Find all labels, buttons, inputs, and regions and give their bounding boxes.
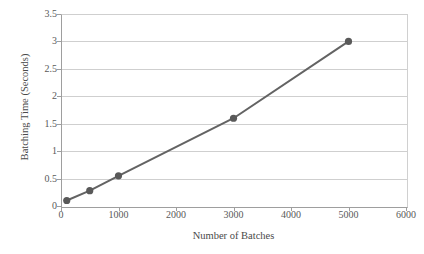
x-axis-tick-label: 6000 <box>376 210 424 220</box>
y-axis-tick-label: 3 <box>17 36 57 46</box>
data-point-marker <box>86 187 93 194</box>
series-line <box>67 41 349 200</box>
y-axis-tick-label: 1 <box>17 146 57 156</box>
data-point-marker <box>345 38 352 45</box>
data-point-marker <box>230 115 237 122</box>
y-axis-tick-label: 3.5 <box>17 9 57 19</box>
y-axis-tick-label: 1.5 <box>17 119 57 129</box>
y-axis-tick-mark <box>57 41 61 42</box>
x-axis-tick-label: 5000 <box>319 210 379 220</box>
chart-container: Batching Time (Seconds) Number of Batche… <box>0 0 424 254</box>
x-axis-tick-label: 1000 <box>89 210 149 220</box>
y-axis-tick-mark <box>57 151 61 152</box>
x-axis-tick-label: 4000 <box>261 210 321 220</box>
y-axis-tick-mark <box>57 69 61 70</box>
y-axis-tick-label: 0.5 <box>17 174 57 184</box>
y-axis-tick-mark <box>57 179 61 180</box>
x-axis-tick-label: 0 <box>31 210 91 220</box>
x-axis-title: Number of Batches <box>61 230 406 241</box>
y-axis-tick-label: 2 <box>17 91 57 101</box>
y-axis-tick-mark <box>57 124 61 125</box>
x-axis-tick-label: 3000 <box>204 210 264 220</box>
y-axis-tick-mark <box>57 14 61 15</box>
y-axis-tick-mark <box>57 96 61 97</box>
x-axis-tick-label: 2000 <box>146 210 206 220</box>
y-axis-tick-label: 2.5 <box>17 64 57 74</box>
series-line-batching-time <box>61 14 407 207</box>
data-point-marker <box>115 172 122 179</box>
data-point-marker <box>63 197 70 204</box>
